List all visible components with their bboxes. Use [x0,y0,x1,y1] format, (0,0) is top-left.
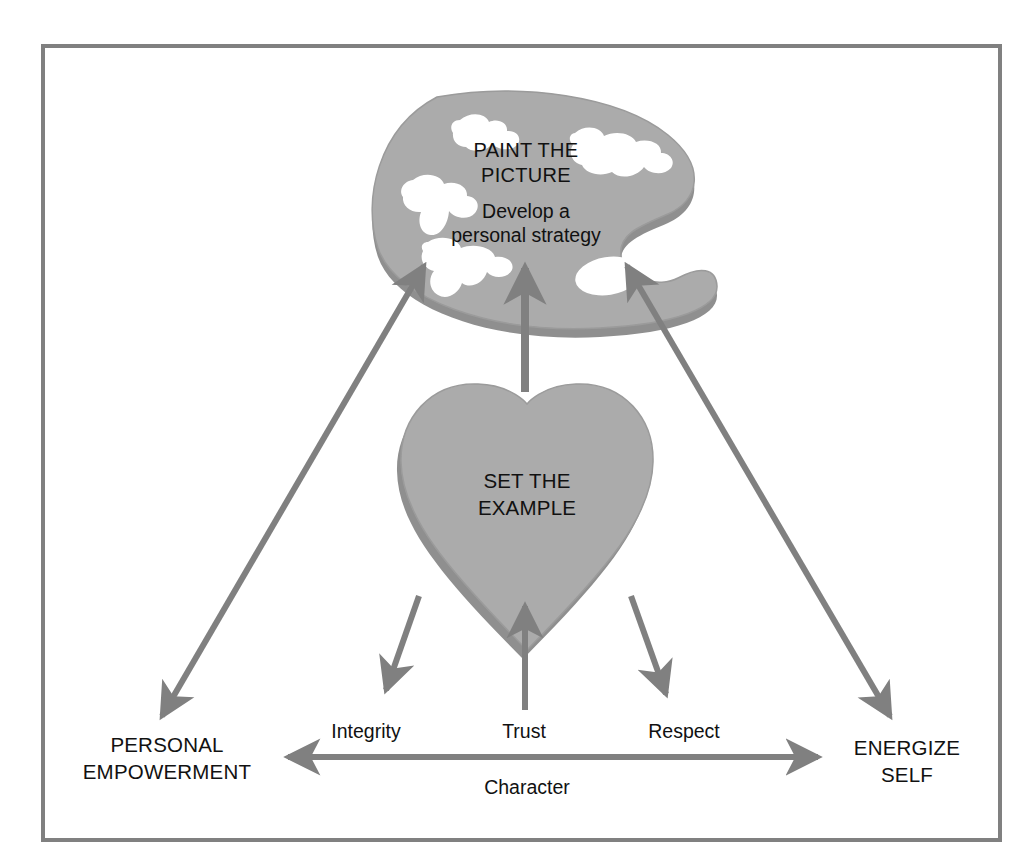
value-label-integrity: Integrity [331,720,401,742]
palette-sub-line2: personal strategy [451,224,601,246]
palette-heading-line2: PICTURE [481,164,571,186]
leadership-model-diagram: PAINT THE PICTURE Develop a personal str… [0,0,1029,866]
palette-sub-line1: Develop a [482,200,570,222]
axis-label-character: Character [484,776,570,798]
node-personal-empowerment-line2: EMPOWERMENT [83,760,252,783]
heart-heading-line1: SET THE [483,469,570,492]
palette-heading-line1: PAINT THE [474,139,579,161]
node-personal-empowerment-line1: PERSONAL [110,733,223,756]
diagram-canvas: PAINT THE PICTURE Develop a personal str… [0,0,1029,866]
heart-heading-line2: EXAMPLE [478,496,576,519]
value-label-respect: Respect [648,720,720,742]
value-label-trust: Trust [502,720,546,742]
node-energize-self-line1: ENERGIZE [854,736,960,759]
node-energize-self-line2: SELF [881,763,933,786]
